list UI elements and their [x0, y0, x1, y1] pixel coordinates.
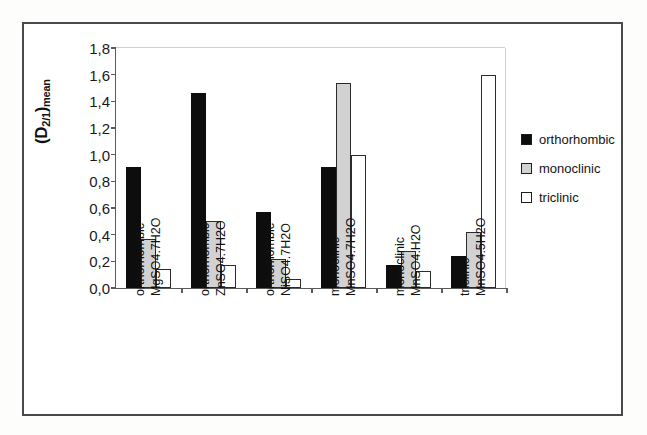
x-axis-category-5: monoclinicMnSO4.H2O — [392, 176, 426, 296]
x-axis-category-compound: MgSO4.7H2O — [148, 217, 164, 296]
y-axis-title-mean: mean — [40, 79, 52, 107]
y-axis-tick-labels: 1,81,61,41,21,00,80,60,40,20,0 — [62, 48, 110, 288]
legend-swatch-triclinic — [521, 192, 532, 203]
legend-item-triclinic: triclinic — [521, 191, 626, 204]
x-axis-category-3: orthorhombicNiSO4.7H2O — [262, 176, 296, 296]
legend-swatch-orthorhombic — [521, 134, 532, 145]
x-axis-tick-mark — [506, 288, 508, 293]
x-axis-tick-mark — [376, 288, 378, 293]
legend-item-orthorhombic: orthorhombic — [521, 133, 626, 146]
y-axis-tick-mark — [111, 101, 116, 103]
y-axis-tick-mark — [111, 234, 116, 236]
y-axis-tick-label: 1,4 — [70, 93, 110, 110]
x-axis-category-system: monoclinic — [327, 217, 343, 296]
x-axis-tick-mark — [181, 288, 183, 293]
legend-label: monoclinic — [539, 161, 600, 176]
y-axis-tick-label: 1,8 — [70, 40, 110, 57]
legend-label: orthorhombic — [539, 132, 615, 147]
y-axis-tick-label: 0,4 — [70, 226, 110, 243]
y-axis-tick-label: 1,6 — [70, 66, 110, 83]
x-axis-category-compound: NiSO4.7H2O — [278, 223, 294, 296]
x-axis-category-1: orthorhombicMgSO4.7H2O — [132, 176, 166, 296]
x-axis-category-system: monoclinic — [392, 224, 408, 296]
x-axis-tick-mark — [246, 288, 248, 293]
y-axis-tick-label: 0,2 — [70, 253, 110, 270]
x-axis-tick-mark — [441, 288, 443, 293]
y-axis-tick-label: 0,6 — [70, 200, 110, 217]
x-axis-category-system: triclinic — [457, 217, 473, 296]
x-axis-category-system: orthorhombic — [132, 217, 148, 296]
y-axis-tick-mark — [111, 181, 116, 183]
legend-item-monoclinic: monoclinic — [521, 162, 626, 175]
y-axis-title-close: ) — [32, 107, 51, 112]
y-axis-tick-mark — [111, 74, 116, 76]
y-axis-tick-label: 0,0 — [70, 280, 110, 297]
figure-canvas: (D2/1)mean 1,81,61,41,21,00,80,60,40,20,… — [0, 0, 647, 435]
x-axis-category-system: orthorhombic — [262, 223, 278, 296]
x-axis-category-compound: MnSO4.5H2O — [473, 217, 489, 296]
y-axis-tick-label: 1,0 — [70, 146, 110, 163]
y-axis-title-subscript: 2/1 — [40, 112, 52, 126]
x-axis-category-compound: MnSO4.7H2O — [343, 217, 359, 296]
x-axis-category-6: triclinicMnSO4.5H2O — [457, 176, 491, 296]
plot-area — [115, 48, 506, 289]
legend-label: triclinic — [539, 190, 579, 205]
y-axis-tick-label: 0,8 — [70, 173, 110, 190]
x-axis-tick-mark — [311, 288, 313, 293]
x-axis-category-2: orthorhombicZnSO4.7H2O — [197, 176, 231, 296]
y-axis-tick-mark — [111, 47, 116, 49]
y-axis-title: (D2/1)mean — [32, 4, 56, 144]
x-axis-category-4: monoclinicMnSO4.7H2O — [327, 176, 361, 296]
y-axis-tick-label: 1,2 — [70, 120, 110, 137]
y-axis-title-main: (D — [32, 127, 51, 144]
y-axis-tick-mark — [111, 154, 116, 156]
y-axis-tick-mark — [111, 207, 116, 209]
x-axis-category-system: orthorhombic — [197, 220, 213, 296]
x-axis-category-compound: MnSO4.H2O — [408, 224, 424, 296]
chart-legend: orthorhombicmonoclinictriclinic — [521, 133, 626, 220]
y-axis-tick-mark — [111, 287, 116, 289]
y-axis-tick-mark — [111, 261, 116, 263]
y-axis-tick-mark — [111, 127, 116, 129]
x-axis-category-compound: ZnSO4.7H2O — [213, 220, 229, 296]
legend-swatch-monoclinic — [521, 163, 532, 174]
